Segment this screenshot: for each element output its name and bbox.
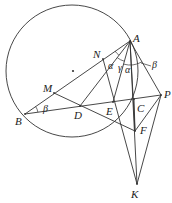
point-label-a: A xyxy=(132,32,140,44)
angle-arc-a-gamma xyxy=(117,58,124,62)
diagram-svg: ABMNDECPFK αγαββ xyxy=(0,0,172,203)
point-p xyxy=(160,94,162,96)
segment-mf xyxy=(54,93,135,131)
point-label-c: C xyxy=(137,102,145,114)
segment-ab xyxy=(25,41,130,114)
point-c xyxy=(133,98,135,100)
point-a xyxy=(129,40,131,42)
point-k xyxy=(136,183,138,185)
angle-label: β xyxy=(151,59,157,70)
point-label-n: N xyxy=(92,48,101,60)
point-label-d: D xyxy=(73,109,82,121)
point-e xyxy=(112,101,114,103)
point-label-e: E xyxy=(105,105,113,117)
point-label-p: P xyxy=(163,88,171,100)
point-b xyxy=(24,113,26,115)
angle-label: α xyxy=(125,64,131,75)
segment-af xyxy=(130,41,135,131)
angle-arc-b-beta xyxy=(36,106,38,112)
segment-ad xyxy=(80,41,130,106)
point-label-k: K xyxy=(130,188,139,200)
geometry-diagram: ABMNDECPFK αγαββ xyxy=(0,0,172,203)
circle-center-dot xyxy=(72,70,74,72)
point-m xyxy=(53,92,55,94)
point-n xyxy=(102,58,104,60)
angle-label: β xyxy=(42,103,48,114)
point-label-m: M xyxy=(42,82,53,94)
point-label-b: B xyxy=(15,115,22,127)
point-d xyxy=(79,105,81,107)
point-label-f: F xyxy=(139,124,147,136)
angle-label: α xyxy=(108,60,114,71)
angle-arc-a-alpha xyxy=(115,51,119,55)
point-f xyxy=(134,130,136,132)
point-labels: ABMNDECPFK xyxy=(15,32,171,200)
beta-leader-line xyxy=(141,63,151,66)
